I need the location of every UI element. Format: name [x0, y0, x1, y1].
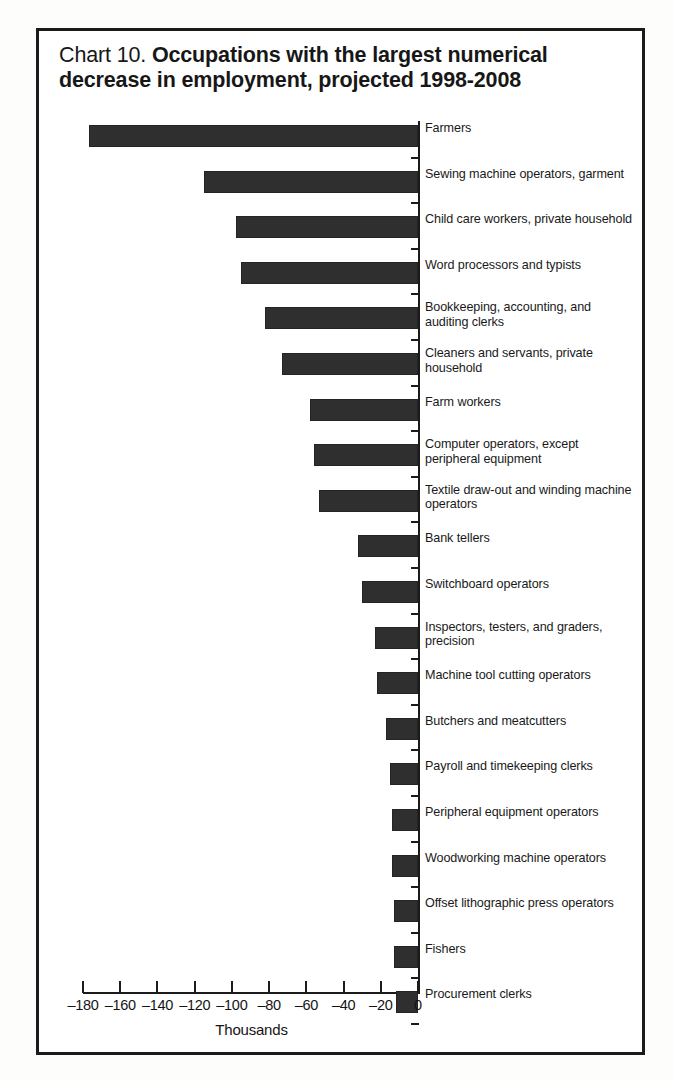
- bar-label-line: Payroll and timekeeping clerks: [425, 759, 649, 774]
- category-tick: [411, 977, 419, 979]
- bar-row: Bank tellers: [39, 531, 642, 577]
- bar: [392, 855, 418, 877]
- bar-row: Offset lithographic press operators: [39, 896, 642, 942]
- bar-row: Machine tool cutting operators: [39, 668, 642, 714]
- x-axis-tick: [305, 981, 307, 993]
- x-axis-tick-label: –100: [216, 997, 247, 1013]
- bar: [310, 399, 418, 421]
- bar-label-line: Inspectors, testers, and graders,: [425, 620, 649, 635]
- bar-label-line: Peripheral equipment operators: [425, 805, 649, 820]
- bar: [386, 718, 418, 740]
- category-tick: [411, 613, 419, 615]
- bar-label: Fishers: [425, 942, 649, 957]
- category-tick: [411, 749, 419, 751]
- category-tick: [411, 157, 419, 159]
- bar-label: Textile draw-out and winding machineoper…: [425, 483, 649, 512]
- bar-label: Peripheral equipment operators: [425, 805, 649, 820]
- bar-label-line: Switchboard operators: [425, 577, 649, 592]
- bar-label-line: Computer operators, except: [425, 437, 649, 452]
- category-tick: [411, 658, 419, 660]
- x-axis-tick: [82, 981, 84, 993]
- bar-row: Farmers: [39, 121, 642, 167]
- bar-label: Child care workers, private household: [425, 212, 649, 227]
- x-axis-tick-label: –140: [142, 997, 173, 1013]
- bar-label: Offset lithographic press operators: [425, 896, 649, 911]
- x-axis-tick: [194, 981, 196, 993]
- bar-label-line: Machine tool cutting operators: [425, 668, 649, 683]
- bar-label-line: auditing clerks: [425, 315, 649, 330]
- bar-label: Bank tellers: [425, 531, 649, 546]
- x-axis-tick: [268, 981, 270, 993]
- bar: [265, 307, 418, 329]
- bar-label-line: Farmers: [425, 121, 649, 136]
- bar: [319, 490, 418, 512]
- plot-area: FarmersSewing machine operators, garment…: [39, 31, 642, 1052]
- bar-label-line: household: [425, 361, 649, 376]
- bar-row: Cleaners and servants, privatehousehold: [39, 349, 642, 395]
- x-axis-tick-label: –80: [257, 997, 280, 1013]
- bar-label-line: operators: [425, 497, 649, 512]
- category-tick: [411, 795, 419, 797]
- page-background: Chart 10. Occupations with the largest n…: [0, 0, 673, 1080]
- bar-label-line: Word processors and typists: [425, 258, 649, 273]
- x-axis-tick: [231, 981, 233, 993]
- category-tick: [411, 248, 419, 250]
- bar: [362, 581, 418, 603]
- bar-label-line: precision: [425, 634, 649, 649]
- bar-row: Sewing machine operators, garment: [39, 167, 642, 213]
- bar: [241, 262, 418, 284]
- bar-row: Switchboard operators: [39, 577, 642, 623]
- category-tick: [411, 841, 419, 843]
- bar-label-line: Offset lithographic press operators: [425, 896, 649, 911]
- bar: [375, 627, 418, 649]
- bar-label: Cleaners and servants, privatehousehold: [425, 346, 649, 375]
- bar: [89, 125, 418, 147]
- x-axis-tick-label: –60: [295, 997, 318, 1013]
- category-tick: [411, 521, 419, 523]
- category-tick: [411, 476, 419, 478]
- x-axis-tick: [343, 981, 345, 993]
- bar: [390, 763, 418, 785]
- category-tick: [411, 430, 419, 432]
- bar-label-line: Woodworking machine operators: [425, 851, 649, 866]
- x-axis-tick-label: 0: [414, 997, 422, 1013]
- bar-row: Butchers and meatcutters: [39, 714, 642, 760]
- x-axis-tick-label: –120: [179, 997, 210, 1013]
- x-axis-tick: [380, 981, 382, 993]
- bar-row: Fishers: [39, 942, 642, 988]
- bar: [282, 353, 418, 375]
- x-axis-tick: [119, 981, 121, 993]
- bar-label-line: Textile draw-out and winding machine: [425, 483, 649, 498]
- category-tick: [411, 932, 419, 934]
- bar-row: Payroll and timekeeping clerks: [39, 759, 642, 805]
- bar-label: Procurement clerks: [425, 987, 649, 1002]
- bar-row: Bookkeeping, accounting, andauditing cle…: [39, 303, 642, 349]
- bar-label-line: Child care workers, private household: [425, 212, 649, 227]
- category-tick: [411, 704, 419, 706]
- bar: [394, 900, 418, 922]
- bar-label: Butchers and meatcutters: [425, 714, 649, 729]
- bar-label: Computer operators, exceptperipheral equ…: [425, 437, 649, 466]
- category-tick: [411, 339, 419, 341]
- bar: [236, 216, 418, 238]
- x-axis-title: Thousands: [83, 1021, 420, 1038]
- bar-label: Farm workers: [425, 395, 649, 410]
- bar-label-line: Bookkeeping, accounting, and: [425, 300, 649, 315]
- x-axis-tick-label: –160: [105, 997, 136, 1013]
- bar-label: Farmers: [425, 121, 649, 136]
- bar-label: Inspectors, testers, and graders,precisi…: [425, 620, 649, 649]
- bar-row: Woodworking machine operators: [39, 851, 642, 897]
- category-tick: [411, 567, 419, 569]
- bar-row: Peripheral equipment operators: [39, 805, 642, 851]
- x-axis-tick: [156, 981, 158, 993]
- bar: [394, 946, 418, 968]
- bar-row: Word processors and typists: [39, 258, 642, 304]
- chart-frame: Chart 10. Occupations with the largest n…: [36, 28, 645, 1055]
- bar-label: Machine tool cutting operators: [425, 668, 649, 683]
- category-tick: [411, 293, 419, 295]
- bar-row: Inspectors, testers, and graders,precisi…: [39, 623, 642, 669]
- bar-row: Computer operators, exceptperipheral equ…: [39, 440, 642, 486]
- bar: [358, 535, 418, 557]
- bar-label-line: Sewing machine operators, garment: [425, 167, 649, 182]
- bar-label-line: Butchers and meatcutters: [425, 714, 649, 729]
